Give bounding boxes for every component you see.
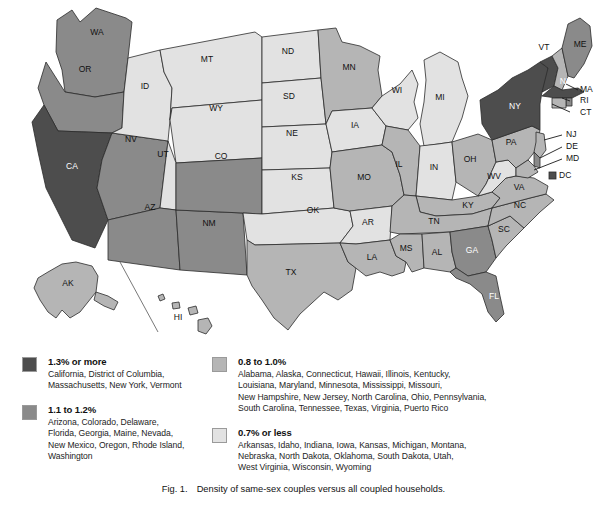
caption-text: Density of same-sex couples versus all c… [197,484,446,494]
legend-column-right: 0.8 to 1.0% Alabama, Alaska, Connecticut… [212,356,592,486]
legend-swatch-tier-1 [22,357,37,372]
legend-title-tier-1: 1.3% or more [48,356,207,368]
callout-MA: MA [580,84,593,94]
legend-title-tier-2: 1.1 to 1.2% [48,404,207,416]
state-HI-maui[interactable] [188,306,198,315]
callout-NJ: NJ [566,129,576,139]
legend-column-left: 1.3% or more California, District of Col… [22,356,207,474]
figure-root: WA OR CA NV ID MT WY UT AZ NM CO ND SD N… [0,0,607,509]
callout-DC: DC [559,170,571,180]
legend-swatch-tier-2 [22,405,37,420]
legend-entry-tier-4[interactable]: 0.7% or less Arkansas, Idaho, Indiana, I… [212,427,592,474]
label-VT: VT [539,42,550,52]
state-TX[interactable] [247,240,356,330]
label-HI: HI [174,312,183,322]
state-IN[interactable] [416,142,456,200]
state-HI-oahu[interactable] [172,302,180,309]
state-OK[interactable] [243,208,353,245]
state-CT[interactable] [552,98,566,108]
callout-CT: CT [580,107,591,117]
state-CO[interactable] [176,158,262,214]
state-FL[interactable] [450,268,504,322]
legend-swatch-tier-4 [212,428,227,443]
state-SD[interactable] [262,78,326,127]
caption-number: Fig. 1. [162,484,188,494]
legend-entry-tier-1[interactable]: 1.3% or more California, District of Col… [22,356,207,392]
leader-NJ [544,135,562,140]
state-NV[interactable] [97,133,168,220]
legend-states-tier-1: California, District of Columbia, Massac… [48,369,207,392]
legend-states-tier-2: Arizona, Colorado, Delaware, Florida, Ge… [48,417,207,463]
legend-title-tier-4: 0.7% or less [238,427,592,439]
state-AK-aleutians[interactable] [94,292,118,310]
state-KS[interactable] [262,168,334,214]
choropleth-map: WA OR CA NV ID MT WY UT AZ NM CO ND SD N… [0,0,607,350]
state-AK[interactable] [34,262,98,318]
state-WA[interactable] [56,8,132,97]
state-MI[interactable] [420,52,468,146]
state-HI-hawaii[interactable] [198,318,212,334]
callout-MD: MD [566,153,579,163]
legend-entry-tier-2[interactable]: 1.1 to 1.2% Arizona, Colorado, Delaware,… [22,404,207,463]
state-AZ[interactable] [108,208,180,270]
state-RI[interactable] [566,98,572,106]
callout-DE: DE [566,141,578,151]
state-ND[interactable] [262,30,321,83]
legend-entry-tier-3[interactable]: 0.8 to 1.0% Alabama, Alaska, Connecticut… [212,356,592,415]
state-HI-kauai[interactable] [158,294,165,301]
legend: 1.3% or more California, District of Col… [0,352,607,477]
state-WY[interactable] [170,100,262,163]
callout-RI: RI [580,95,589,105]
state-NE[interactable] [262,124,332,170]
inset-divider [120,262,158,332]
legend-states-tier-4: Arkansas, Idaho, Indiana, Iowa, Kansas, … [238,440,592,474]
legend-states-tier-3: Alabama, Alaska, Connecticut, Hawaii, Il… [238,369,592,415]
legend-title-tier-3: 0.8 to 1.0% [238,356,592,368]
legend-swatch-tier-3 [212,357,227,372]
state-NY[interactable] [480,62,552,140]
state-ME[interactable] [562,18,592,78]
state-DC[interactable] [549,172,556,179]
figure-caption: Fig. 1.Density of same-sex couples versu… [0,484,607,494]
state-NM[interactable] [176,210,247,275]
